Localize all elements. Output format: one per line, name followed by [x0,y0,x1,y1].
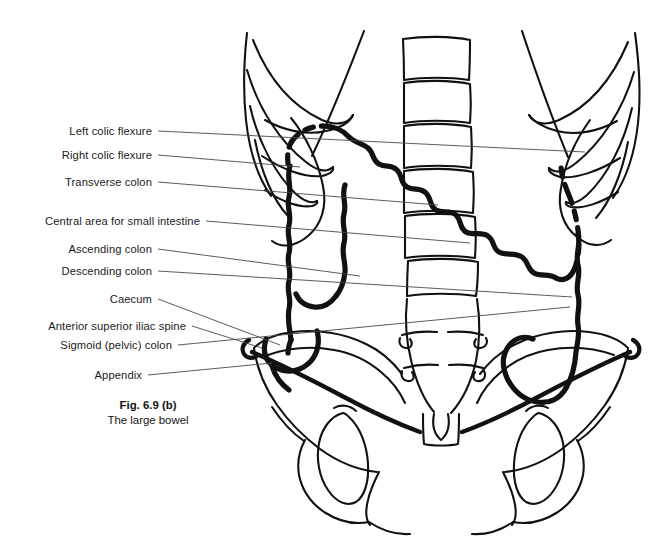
ilium-right-body [505,349,628,472]
label-transverse-colon: Transverse colon [0,176,152,189]
sacral-foramen-1l [399,338,411,348]
rib-right-2 [549,72,634,171]
sacrum [406,299,434,412]
sacral-line-2 [404,365,438,368]
leader-transverse-colon [158,182,438,205]
large-bowel-outline [243,126,640,432]
sacral-foramen-2l [401,371,413,381]
ischium-left [369,522,410,534]
label-ascending-colon: Ascending colon [0,243,152,256]
label-central-area-small-intestine: Central area for small intestine [0,215,200,228]
leader-appendix [148,363,272,375]
ilium-right-lower [578,407,610,441]
right-colic-flexure [288,141,292,164]
label-sigmoid-pelvic-colon: Sigmoid (pelvic) colon [0,339,172,352]
descending-colon [566,234,579,388]
rib-left-3 [250,106,317,202]
label-appendix: Appendix [0,369,142,382]
obturator-foramen-right [514,413,564,504]
leader-central-area-small-intestine [206,221,470,243]
ischium-right [472,522,513,534]
figure-caption: Fig. 6.9 (b) The large bowel [78,398,218,428]
obturator-foramen-left [318,413,368,504]
leader-ascending-colon [158,249,360,276]
label-right-colic-flexure: Right colic flexure [0,149,152,162]
sigmoid-colon [504,337,567,402]
vertebra-l2 [404,81,471,123]
central-small-intestine-lower [296,294,336,307]
costal-margin-right [560,120,611,245]
caption-subtitle: The large bowel [78,413,218,428]
label-descending-colon: Descending colon [0,265,152,278]
coccyx [433,414,448,440]
vertebra-l1 [403,37,470,80]
rib-left-2b [262,156,333,176]
label-caecum: Caecum [0,293,152,306]
leader-descending-colon [158,271,572,297]
leader-anterior-superior-iliac-spine [192,326,262,348]
ilium-left-lower [272,407,304,441]
costal-line-right [522,31,568,157]
sacral-line-2r [449,365,483,368]
acetabulum-right [513,440,584,523]
rib-right-1 [529,42,628,123]
ascending-colon [288,166,291,340]
rib-cage-right [613,33,639,198]
obturator-notch-right [526,406,548,411]
left-colic-flexure [556,270,574,280]
leader-sigmoid-pelvic-colon [178,307,570,345]
vertebra-l5 [405,214,476,258]
sacral-line-1r [448,332,483,335]
label-anterior-superior-iliac-spine: Anterior superior iliac spine [0,320,186,333]
sacral-foramen-2r [473,371,485,381]
label-left-colic-flexure: Left colic flexure [0,125,152,138]
costal-line-left [312,31,364,156]
central-small-intestine-left-edge [336,185,345,296]
rib-left-1 [253,40,353,123]
acetabulum-left [298,440,369,523]
leader-right-colic-flexure [158,155,300,167]
anatomy-diagram [0,0,668,560]
caption-title: Fig. 6.9 (b) [78,398,218,413]
sacral-foramen-1r [474,338,487,348]
anterior-superior-iliac-spine-right [624,340,639,358]
figure-canvas: Left colic flexureRight colic flexureTra… [0,0,668,560]
rib-right-3 [566,108,632,203]
obturator-notch-left [334,406,356,411]
caecum-ascending-join [288,340,291,353]
